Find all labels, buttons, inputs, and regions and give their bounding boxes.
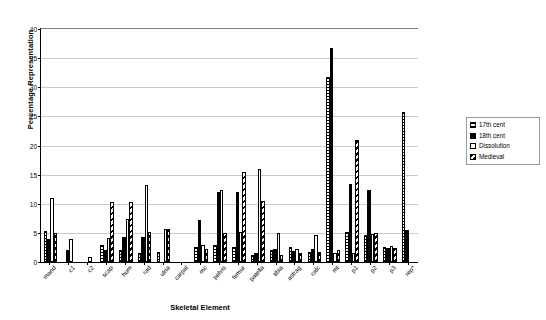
bar xyxy=(393,248,396,262)
x-axis-tick-label: p2 xyxy=(368,264,378,274)
bar-group xyxy=(135,29,154,262)
legend-swatch-dissolution xyxy=(470,143,476,149)
bar xyxy=(318,252,321,262)
bar-group xyxy=(98,29,117,262)
legend-label: Dissolution xyxy=(479,143,510,149)
bar-chart: Percentage Representation 05101520253035… xyxy=(0,0,546,320)
x-axis-title: Skeletal Element xyxy=(0,303,400,312)
bar xyxy=(54,233,57,262)
bar-group xyxy=(267,29,286,262)
bar-group xyxy=(399,29,418,262)
bar xyxy=(280,255,283,262)
legend: 17th cent 18th cent Dissolution Medieval xyxy=(466,117,540,165)
bar xyxy=(157,252,160,262)
bar xyxy=(167,229,170,262)
legend-swatch-medieval xyxy=(470,154,476,160)
bar xyxy=(69,239,72,262)
legend-label: 17th cent xyxy=(479,122,505,128)
x-axis-tick-mark xyxy=(144,262,145,265)
bar xyxy=(110,202,113,262)
x-axis-tick-label: rep* xyxy=(403,264,416,277)
bar xyxy=(148,232,151,262)
bar-group xyxy=(116,29,135,262)
bar-group xyxy=(380,29,399,262)
x-axis-tick-label: carpal xyxy=(173,264,190,281)
bar-group xyxy=(324,29,343,262)
x-axis-tick-label: ulna xyxy=(158,264,171,277)
bar-group xyxy=(230,29,249,262)
bar-group xyxy=(211,29,230,262)
bar-group xyxy=(173,29,192,262)
bar xyxy=(205,249,208,262)
x-axis-tick-label: patella xyxy=(247,264,265,282)
x-axis-tick-label: mand xyxy=(42,264,58,280)
bar xyxy=(337,250,340,262)
legend-item: Medieval xyxy=(470,152,537,163)
x-axis-tick-label: c2 xyxy=(86,264,96,274)
bar xyxy=(374,233,377,262)
x-axis-tick-label: tibia xyxy=(271,264,284,277)
x-axis-tick-label: mt xyxy=(330,264,340,274)
x-axis-tick-mark xyxy=(276,262,277,265)
x-axis-tick-label: scap xyxy=(100,264,114,278)
x-axis-tick-label: rad xyxy=(141,264,152,275)
bar-group xyxy=(60,29,79,262)
bar-group xyxy=(248,29,267,262)
plot-area: 0510152025303540 xyxy=(40,28,418,262)
x-axis-tick-mark xyxy=(163,262,164,265)
legend-swatch-17th-cent xyxy=(470,122,476,128)
bar xyxy=(299,253,302,262)
legend-label: Medieval xyxy=(479,154,504,160)
bar-group xyxy=(41,29,60,262)
bar-group xyxy=(192,29,211,262)
bar xyxy=(355,140,358,262)
bar xyxy=(405,230,408,262)
legend-item: 17th cent xyxy=(470,120,537,131)
x-axis-tick-label: c1 xyxy=(67,264,77,274)
legend-swatch-18th-cent xyxy=(470,133,476,139)
bar xyxy=(223,233,226,262)
bar-group xyxy=(361,29,380,262)
bar-group xyxy=(286,29,305,262)
x-axis-tick-label: mc xyxy=(198,264,209,275)
legend-label: 18th cent xyxy=(479,133,505,139)
bar-group xyxy=(79,29,98,262)
x-axis-line xyxy=(40,262,418,263)
bar xyxy=(242,172,245,262)
x-axis-tick-mark xyxy=(408,262,409,265)
bar xyxy=(129,202,132,262)
x-axis-tick-label: calc xyxy=(309,264,322,277)
bar xyxy=(349,184,352,262)
bar-group xyxy=(305,29,324,262)
x-axis-tick-label: pelvis xyxy=(211,264,227,280)
x-axis-tick-label: p3 xyxy=(387,264,397,274)
bar-group xyxy=(154,29,173,262)
x-axis-tick-label: femur xyxy=(230,264,246,280)
x-axis-tick-label: p1 xyxy=(349,264,359,274)
legend-item: 18th cent xyxy=(470,131,537,142)
x-axis-tick-label: astrag xyxy=(286,264,303,281)
bar-group xyxy=(343,29,362,262)
legend-item: Dissolution xyxy=(470,141,537,152)
bar xyxy=(261,201,264,262)
x-axis-tick-label: hum xyxy=(120,264,133,278)
bar xyxy=(330,48,333,262)
